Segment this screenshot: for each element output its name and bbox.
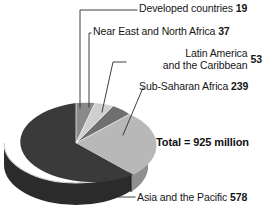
callout-developed-countries-label: Developed countries	[139, 2, 233, 14]
callout-sub-saharan-label: Sub-Saharan Africa	[139, 80, 228, 92]
callout-near-east-value: 37	[218, 25, 229, 37]
callout-latin-america-and-the-caribbean: Latin Americaand the Caribbean53	[128, 48, 262, 71]
callout-asia-value: 578	[230, 191, 247, 203]
callout-near-east-label: Near East and North Africa	[93, 25, 215, 37]
callout-near-east-and-north-africa: Near East and North Africa 37	[93, 26, 230, 38]
callout-developed-countries: Developed countries 19	[139, 3, 247, 15]
leader-line-near-east	[89, 33, 91, 107]
callout-asia-and-the-pacific: Asia and the Pacific 578	[137, 192, 247, 204]
callout-asia-label: Asia and the Pacific	[137, 191, 227, 203]
callout-sub-saharan-value: 239	[231, 80, 248, 92]
callout-latin-america-value: 53	[248, 54, 262, 66]
callout-sub-saharan-africa: Sub-Saharan Africa 239	[139, 81, 248, 93]
total-label: Total = 925 million	[156, 136, 249, 148]
pie-top-surface	[20, 103, 156, 182]
callout-latin-america-line1: Latin America	[185, 47, 247, 59]
callout-latin-america-line2: and the Caribbean	[163, 59, 248, 71]
callout-developed-countries-value: 19	[236, 2, 247, 14]
pie-chart-figure: Developed countries 19 Near East and Nor…	[0, 0, 266, 212]
callout-latin-america-label: Latin Americaand the Caribbean	[163, 48, 248, 71]
